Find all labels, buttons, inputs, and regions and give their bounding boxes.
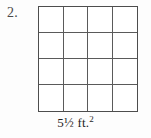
figure-caption: 5½ ft.2 [0,115,151,130]
grid-cell [39,7,64,33]
caption-measure-text: 5½ ft. [57,115,89,130]
grid-cell [113,85,138,111]
grid-cell [64,59,89,85]
grid-cell [113,33,138,59]
grid-cell [39,33,64,59]
grid-cell [64,7,89,33]
grid-cell [39,85,64,111]
grid-cell [88,7,113,33]
grid-cell [88,33,113,59]
worksheet-figure: 2. 5½ ft.2 [0,0,151,138]
grid-cell [64,33,89,59]
grid-cell [39,59,64,85]
grid-cell [88,59,113,85]
problem-number-label: 2. [7,5,18,21]
square-grid-figure [38,6,138,112]
grid-cell [64,85,89,111]
grid-cell [113,59,138,85]
grid-cell [88,85,113,111]
caption-exponent-text: 2 [89,114,94,124]
grid-cell [113,7,138,33]
